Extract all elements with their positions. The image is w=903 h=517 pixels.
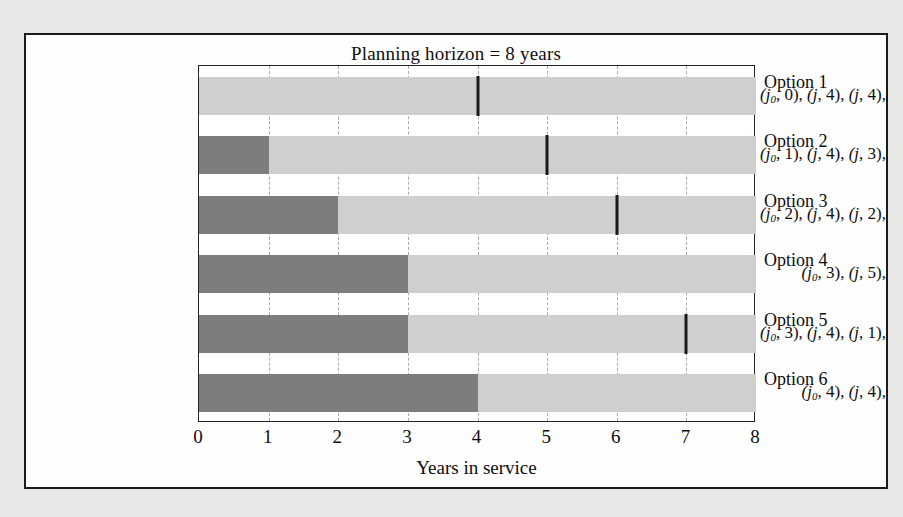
bar-row[interactable] <box>199 196 754 234</box>
gridline <box>686 66 687 421</box>
bar-row[interactable] <box>199 315 754 353</box>
x-tick-label: 2 <box>333 427 343 446</box>
bar-marker <box>685 314 688 354</box>
gridline <box>338 66 339 421</box>
bar-segment-dark <box>199 136 269 174</box>
option-label: Option 4 <box>764 251 828 269</box>
bar-segment-dark <box>199 255 408 293</box>
bar-row[interactable] <box>199 77 754 115</box>
bar-segment-light <box>478 374 757 412</box>
bar-segment-light <box>338 196 756 234</box>
option-label: Option 1 <box>764 73 828 91</box>
gridline <box>478 66 479 421</box>
x-tick-label: 5 <box>541 427 551 446</box>
bar-segment-dark <box>199 374 478 412</box>
x-tick-label: 0 <box>193 427 203 446</box>
bar-segment-light <box>408 315 756 353</box>
bar-segment-dark <box>199 196 338 234</box>
option-label: Option 5 <box>764 311 828 329</box>
x-axis-title: Years in service <box>198 457 755 479</box>
bar-row[interactable] <box>199 136 754 174</box>
x-tick-label: 7 <box>681 427 691 446</box>
option-label: Option 2 <box>764 132 828 150</box>
bar-row[interactable] <box>199 255 754 293</box>
bar-marker <box>476 76 479 116</box>
chart-title: Planning horizon = 8 years <box>26 43 886 65</box>
bar-segment-light <box>269 136 756 174</box>
bar-marker <box>546 135 549 175</box>
x-tick-label: 8 <box>750 427 760 446</box>
figure-frame: Planning horizon = 8 years (j0, 0), (j, … <box>24 33 888 489</box>
option-label: Option 6 <box>764 370 828 388</box>
bar-row[interactable] <box>199 374 754 412</box>
x-tick-label: 6 <box>611 427 621 446</box>
gridline <box>617 66 618 421</box>
gridline <box>547 66 548 421</box>
bar-segment-light <box>408 255 756 293</box>
gridline <box>269 66 270 421</box>
x-tick-label: 4 <box>472 427 482 446</box>
plot-area <box>198 65 755 422</box>
gridline <box>408 66 409 421</box>
option-label: Option 3 <box>764 192 828 210</box>
bar-segment-dark <box>199 315 408 353</box>
x-tick-label: 1 <box>263 427 273 446</box>
x-tick-label: 3 <box>402 427 412 446</box>
bar-marker <box>615 195 618 235</box>
